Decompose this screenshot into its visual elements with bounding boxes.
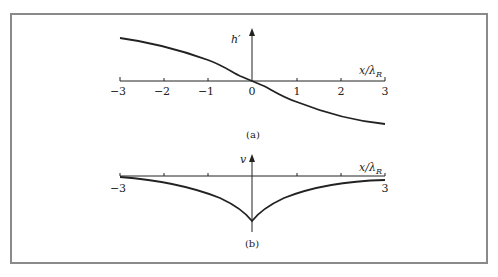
y-axis-arrow-a xyxy=(249,28,255,36)
tick-a-1: 1 xyxy=(294,85,301,98)
tick-a-0: 0 xyxy=(249,85,256,98)
x-axis-label-a: x/λR xyxy=(359,64,382,79)
tick-a-2: 2 xyxy=(338,85,345,98)
y-axis-label-a: h′ xyxy=(231,33,241,46)
x-axis-label-b: x/λR xyxy=(359,161,382,176)
panel-b xyxy=(120,154,385,232)
x-axis-label-b-sub: R xyxy=(376,167,382,176)
tick-a-m2: −2 xyxy=(154,85,170,98)
y-axis-label-b: v xyxy=(240,153,246,166)
x-axis-label-a-sub: R xyxy=(376,70,382,79)
tick-a-3: 3 xyxy=(382,85,389,98)
panel-label-b: (b) xyxy=(245,238,259,249)
panel-a xyxy=(120,28,385,124)
x-axis-label-b-main: x/λ xyxy=(359,161,376,174)
y-axis-arrow-b xyxy=(249,154,255,162)
x-axis-label-a-main: x/λ xyxy=(359,64,376,77)
tick-b-3: 3 xyxy=(382,182,389,195)
tick-a-m3: −3 xyxy=(110,85,126,98)
tick-a-m1: −1 xyxy=(198,85,214,98)
tick-b-m3: −3 xyxy=(110,182,126,195)
panel-label-a: (a) xyxy=(246,129,260,140)
